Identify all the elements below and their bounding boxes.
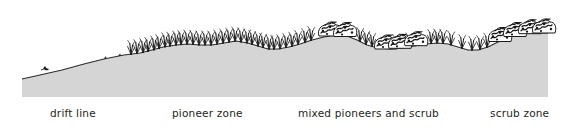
zone-label-mixed-pioneers-and-scrub: mixed pioneers and scrub [298,107,439,119]
zone-label-row: drift line pioneer zone mixed pioneers a… [0,104,580,131]
dune-profile-illustration [0,0,580,104]
dune-succession-figure: drift line pioneer zone mixed pioneers a… [0,0,580,131]
zone-label-drift-line: drift line [50,107,96,119]
zone-label-scrub-zone: scrub zone [490,107,549,119]
zone-label-pioneer-zone: pioneer zone [172,107,243,119]
